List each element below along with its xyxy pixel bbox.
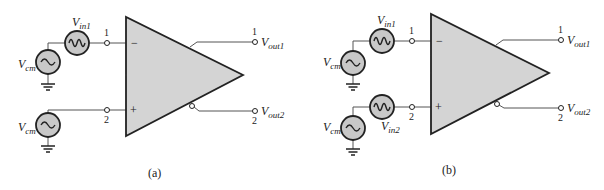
node-2-terminal (105, 108, 110, 113)
ground-icon (41, 84, 55, 90)
vout1-label-a: Vout1 (261, 35, 284, 51)
node-1-label: 1 (409, 25, 414, 36)
vcm-bottom-source-b (341, 116, 365, 140)
vcm-top-label-a: Vcm (18, 57, 36, 73)
ground-icon (346, 84, 360, 90)
caption-b: (b) (442, 163, 456, 177)
vcm-bottom-source-a (36, 113, 60, 137)
output-1-terminal (253, 40, 258, 45)
node-2-label: 2 (104, 114, 109, 125)
vcm-top-source-a (36, 50, 60, 74)
panel-a: − + Vin1 1 Vcm 2 Vcm 1 Vout1 (18, 15, 285, 180)
node-1-terminal (105, 41, 110, 46)
inverted-output-bubble (495, 102, 500, 107)
vin1-source-b (370, 29, 394, 53)
vcm-bottom-label-a: Vcm (18, 120, 36, 136)
inverted-output-bubble (190, 104, 195, 109)
node-1-terminal (410, 39, 415, 44)
node-2-terminal (410, 105, 415, 110)
caption-a: (a) (148, 166, 161, 180)
differential-amplifier-figure: − + Vin1 1 Vcm 2 Vcm 1 Vout1 (0, 0, 604, 190)
inverting-input-sign: − (131, 36, 138, 50)
vcm-top-label-b: Vcm (323, 55, 341, 71)
output-1-node-label: 1 (558, 24, 563, 35)
inverting-input-sign: − (436, 34, 443, 48)
vin2-label-b: Vin2 (381, 119, 400, 135)
output-1-terminal (559, 38, 564, 43)
vin1-label-b: Vin1 (377, 13, 396, 29)
output-2-terminal (559, 106, 564, 111)
noninverting-input-sign: + (435, 100, 442, 114)
node-2-label: 2 (409, 111, 414, 122)
output-2-node-label: 2 (252, 115, 257, 126)
vcm-top-source-b (341, 51, 365, 75)
amplifier-triangle (126, 17, 243, 136)
node-1-label: 1 (104, 27, 109, 38)
vin1-label-a: Vin1 (72, 15, 91, 31)
noninverting-input-sign: + (130, 103, 137, 117)
panel-b: − + Vin1 1 Vcm Vin2 2 Vcm (323, 13, 591, 177)
ground-icon (41, 146, 55, 152)
output-2-terminal (253, 109, 258, 114)
vout1-label-b: Vout1 (567, 33, 590, 49)
output-2-node-label: 2 (558, 112, 563, 123)
vout2-label-b: Vout2 (567, 101, 591, 117)
vin2-source-b (370, 95, 394, 119)
vcm-bottom-label-b: Vcm (323, 120, 341, 136)
vout2-label-a: Vout2 (261, 104, 285, 120)
amplifier-triangle (431, 14, 549, 134)
ground-icon (346, 149, 360, 155)
output-1-node-label: 1 (252, 26, 257, 37)
vin1-source-a (65, 31, 89, 55)
